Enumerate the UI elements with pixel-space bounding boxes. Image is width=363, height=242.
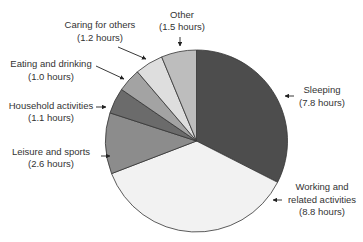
label-other-name: Other [170,9,194,20]
label-sleeping-name: Sleeping [304,84,341,95]
label-eating-name: Eating and drinking [10,58,91,69]
label-working-value: (8.8 hours) [299,206,345,217]
label-sleeping: Sleeping (7.8 hours) [299,84,345,108]
arrow-caring [118,47,146,59]
label-caring: Caring for others (1.2 hours) [65,19,136,43]
label-working-name-2: related activities [288,194,356,205]
label-household-name: Household activities [9,100,94,111]
label-household: Household activities (1.1 hours) [9,100,94,123]
pie-chart: Other (1.5 hours) Caring for others (1.2… [0,0,363,242]
label-eating: Eating and drinking (1.0 hours) [10,58,91,82]
label-leisure: Leisure and sports (2.6 hours) [12,146,90,169]
label-leisure-value: (2.6 hours) [28,158,74,169]
arrow-eating [96,66,124,79]
label-leisure-name: Leisure and sports [12,146,90,157]
label-other: Other (1.5 hours) [159,9,205,32]
pie-slices [105,50,287,232]
label-sleeping-value: (7.8 hours) [299,97,345,108]
label-working: Working and related activities (8.8 hour… [288,181,356,217]
label-caring-value: (1.2 hours) [77,32,123,43]
label-household-value: (1.1 hours) [28,112,74,123]
label-eating-value: (1.0 hours) [28,71,74,82]
label-caring-name: Caring for others [65,19,136,30]
label-working-name-1: Working and [295,181,348,192]
label-other-value: (1.5 hours) [159,21,205,32]
